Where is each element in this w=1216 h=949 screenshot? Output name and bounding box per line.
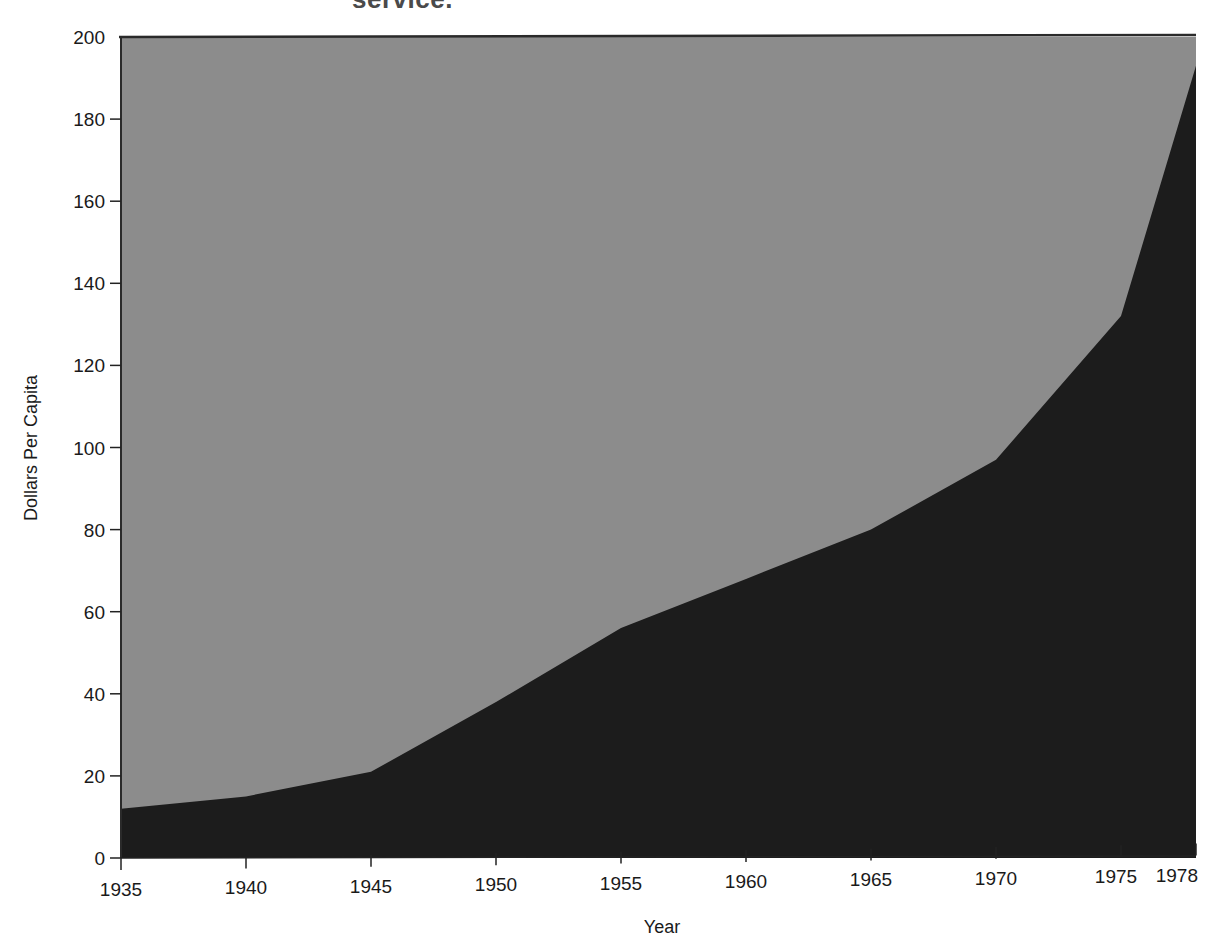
y-tick-label: 80: [84, 520, 105, 541]
y-tick-label: 200: [73, 27, 105, 48]
y-tick-label: 40: [84, 684, 105, 705]
y-tick-label: 0: [94, 848, 105, 869]
y-tick-label: 160: [73, 191, 105, 212]
x-tick-label: 1970: [975, 868, 1017, 889]
x-tick-label: 1965: [850, 869, 892, 890]
y-tick-label: 180: [73, 109, 105, 130]
x-tick-label: 1935: [100, 879, 142, 900]
y-axis: 020406080100120140160180200: [73, 27, 121, 869]
plot-frame-top: [119, 35, 1196, 37]
area-chart: 020406080100120140160180200 193519401945…: [0, 0, 1216, 949]
x-tick-label: 1978: [1156, 865, 1198, 886]
y-tick-label: 140: [73, 273, 105, 294]
x-tick-label: 1950: [475, 874, 517, 895]
x-axis-title: Year: [644, 917, 680, 937]
y-axis-title: Dollars Per Capita: [21, 374, 41, 521]
y-tick-label: 100: [73, 438, 105, 459]
x-tick-label: 1960: [725, 871, 767, 892]
y-tick-label: 60: [84, 602, 105, 623]
x-tick-label: 1975: [1095, 866, 1137, 887]
y-tick-label: 120: [73, 355, 105, 376]
y-tick-label: 20: [84, 766, 105, 787]
plot-area: [119, 35, 1196, 858]
x-tick-label: 1955: [600, 873, 642, 894]
x-tick-label: 1940: [225, 877, 267, 898]
x-tick-label: 1945: [350, 876, 392, 897]
